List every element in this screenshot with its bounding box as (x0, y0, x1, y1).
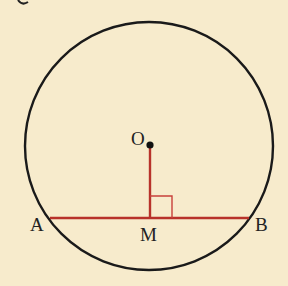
label-b: B (255, 215, 268, 234)
clipped-glyph-fragment (18, 0, 28, 4)
label-a: A (30, 215, 44, 234)
circle-chord-diagram: O A B M (0, 0, 288, 286)
right-angle-marker (150, 196, 172, 218)
label-o: O (131, 129, 145, 148)
label-m: M (140, 225, 157, 244)
center-point-o (146, 141, 153, 148)
